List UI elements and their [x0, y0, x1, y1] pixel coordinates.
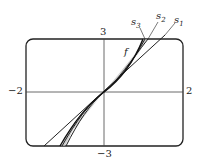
shaded-region-bottom	[61, 92, 104, 146]
s3-label: s3	[131, 17, 141, 30]
y-min-label: −3	[97, 149, 112, 159]
s2-subscript: 2	[161, 16, 165, 24]
s1-label: s1	[174, 15, 184, 28]
s2-leader-line	[148, 22, 158, 39]
f-label: f	[124, 47, 128, 57]
x-max-label: 2	[186, 86, 192, 96]
y-max-label: 3	[100, 27, 106, 37]
s3-subscript: 3	[136, 22, 140, 30]
series-s1-line	[44, 35, 165, 146]
x-min-label: −2	[8, 86, 23, 96]
s1-subscript: 1	[179, 20, 183, 28]
chart-canvas	[0, 0, 198, 162]
s2-label: s2	[156, 11, 166, 24]
